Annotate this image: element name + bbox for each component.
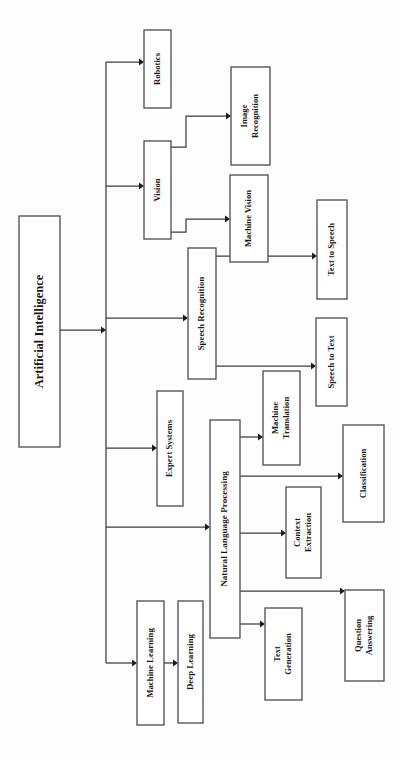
- node-layer: Artificial IntelligenceRoboticsVisionIma…: [19, 30, 384, 725]
- node-natural-language-processing[interactable]: Natural Language Processing: [210, 420, 240, 638]
- arrow-head-icon: [225, 216, 230, 223]
- node-speech-recognition[interactable]: Speech Recognition: [188, 248, 216, 379]
- node-label: Robotics: [151, 52, 161, 85]
- arrow-head-icon: [281, 530, 286, 537]
- node-expert-systems[interactable]: Expert Systems: [157, 391, 183, 506]
- node-vision[interactable]: Vision: [144, 141, 171, 239]
- node-label-line: Machine Vision: [243, 190, 253, 247]
- node-text-to-speech[interactable]: Text to Speech: [317, 200, 347, 299]
- edge-trunk-to-speech-recognition: [106, 315, 188, 322]
- edge-nlp-to-context-extraction: [240, 530, 286, 537]
- node-label: Deep Learning: [185, 633, 195, 690]
- node-label-line: Robotics: [151, 52, 161, 85]
- arrow-head-icon: [312, 253, 317, 260]
- edge-ai-to-trunk: [60, 327, 106, 334]
- edge-trunk-to-nlp: [106, 524, 210, 531]
- edge-path: [171, 219, 228, 232]
- arrow-head-icon: [132, 660, 137, 667]
- node-label-line: Classification: [357, 448, 367, 498]
- node-artificial-intelligence[interactable]: Artificial Intelligence: [19, 216, 60, 447]
- node-label: Expert Systems: [164, 419, 174, 477]
- node-label-line: Image: [239, 104, 249, 127]
- node-label: Classification: [357, 448, 367, 498]
- node-label: Machine Vision: [243, 190, 253, 247]
- edge-vision-to-machine-vision: [171, 216, 230, 232]
- arrow-head-icon: [173, 660, 178, 667]
- node-label: MachineTranslation: [270, 397, 290, 440]
- edge-trunk-to-robotics: [106, 59, 144, 66]
- arrow-head-icon: [183, 315, 188, 322]
- arrow-head-icon: [139, 59, 144, 66]
- node-label-line: Recognition: [250, 94, 260, 138]
- node-label-line: Machine: [270, 402, 280, 434]
- arrow-head-icon: [338, 473, 343, 480]
- node-question-answering[interactable]: QuestionAnswering: [345, 590, 384, 681]
- node-label-line: Extraction: [303, 513, 313, 552]
- arrow-head-icon: [101, 327, 106, 334]
- ai-taxonomy-diagram: Artificial IntelligenceRoboticsVisionIma…: [0, 0, 400, 761]
- node-label-line: Machine Learning: [145, 628, 155, 698]
- node-label-line: Answering: [364, 615, 374, 655]
- node-label: Artificial Intelligence: [31, 274, 45, 388]
- node-machine-learning[interactable]: Machine Learning: [137, 601, 164, 725]
- arrow-head-icon: [152, 445, 157, 452]
- node-classification[interactable]: Classification: [343, 425, 384, 522]
- node-label-line: Artificial Intelligence: [31, 274, 45, 388]
- node-label-line: Generation: [283, 633, 293, 675]
- arrow-head-icon: [340, 588, 345, 595]
- node-text-generation[interactable]: TextGeneration: [265, 608, 302, 700]
- node-label: Text to Speech: [326, 223, 336, 276]
- node-label-line: Vision: [151, 178, 161, 201]
- edge-vision-to-image-recognition: [171, 113, 231, 147]
- node-machine-translation[interactable]: MachineTranslation: [263, 371, 300, 465]
- arrow-head-icon: [139, 183, 144, 190]
- node-machine-vision[interactable]: Machine Vision: [230, 175, 268, 262]
- edge-path: [171, 116, 229, 147]
- node-label: Speech Recognition: [196, 277, 206, 351]
- arrow-head-icon: [205, 524, 210, 531]
- node-label-line: Speech to Text: [325, 335, 335, 388]
- node-image-recognition[interactable]: ImageRecognition: [231, 67, 270, 165]
- node-speech-to-text[interactable]: Speech to Text: [316, 318, 347, 406]
- node-label-line: Expert Systems: [164, 419, 174, 477]
- diagram-canvas: Artificial IntelligenceRoboticsVisionIma…: [0, 0, 400, 761]
- edge-trunk-to-expert-systems: [106, 445, 157, 452]
- node-label: Machine Learning: [145, 628, 155, 698]
- node-label: ContextExtraction: [292, 513, 312, 552]
- arrow-head-icon: [226, 113, 231, 120]
- node-robotics[interactable]: Robotics: [144, 30, 171, 108]
- edge-nlp-to-classification: [240, 473, 343, 480]
- node-label-line: Deep Learning: [185, 633, 195, 690]
- edge-nlp-to-machine-translation: [240, 434, 263, 441]
- node-label: Speech to Text: [325, 335, 335, 388]
- arrow-head-icon: [311, 363, 316, 370]
- node-label: QuestionAnswering: [353, 615, 373, 655]
- node-label: Natural Language Processing: [219, 471, 229, 587]
- node-label-line: Context: [292, 518, 302, 547]
- edge-nlp-to-text-generation: [240, 621, 265, 628]
- node-label-line: Speech Recognition: [196, 277, 206, 351]
- node-label-line: Text to Speech: [326, 223, 336, 276]
- edge-trunk-to-vision: [106, 183, 144, 190]
- edge-machine-learning-to-deep-learning: [164, 660, 178, 667]
- node-label-line: Question: [353, 619, 363, 652]
- edge-trunk-to-machine-learning: [106, 660, 137, 667]
- arrow-head-icon: [260, 621, 265, 628]
- node-label-line: Translation: [281, 397, 291, 440]
- edge-nlp-to-question-answering: [240, 588, 345, 595]
- node-context-extraction[interactable]: ContextExtraction: [286, 487, 321, 578]
- node-label: Vision: [151, 178, 161, 201]
- edge-speech-recognition-to-speech-to-text: [216, 363, 316, 370]
- node-label-line: Natural Language Processing: [219, 471, 229, 587]
- arrow-head-icon: [258, 434, 263, 441]
- node-deep-learning[interactable]: Deep Learning: [178, 601, 203, 723]
- node-label-line: Text: [272, 646, 282, 662]
